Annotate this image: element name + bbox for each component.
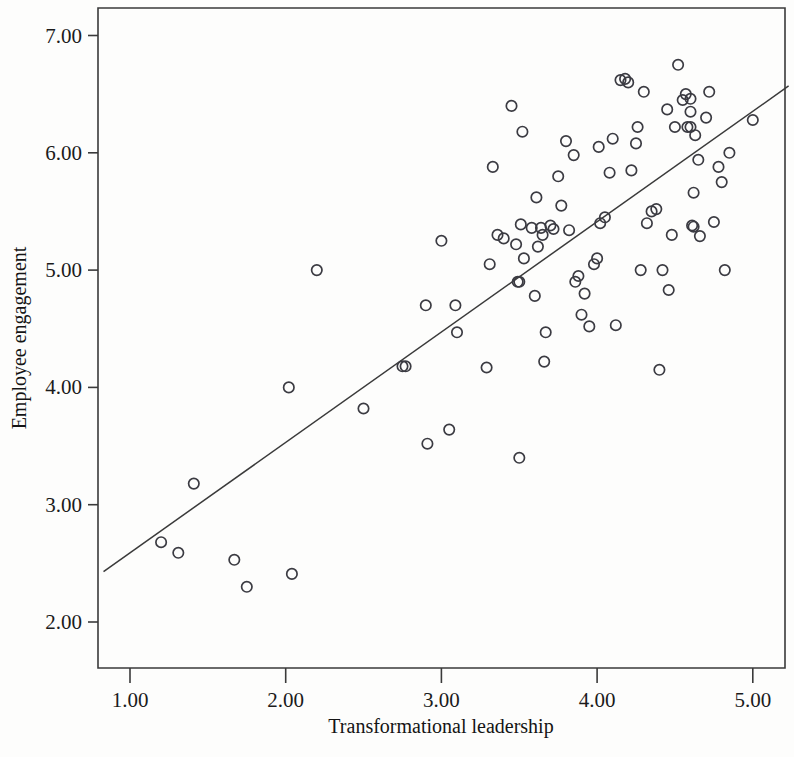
data-point [284, 382, 294, 392]
data-point [499, 233, 509, 243]
data-point [664, 285, 674, 295]
data-point [229, 555, 239, 565]
data-point [481, 362, 491, 372]
data-points [156, 60, 758, 592]
data-point [579, 288, 589, 298]
data-point [564, 225, 574, 235]
x-tick-label: 5.00 [734, 688, 771, 712]
x-tick-label: 2.00 [267, 688, 304, 712]
data-point [444, 424, 454, 434]
data-point [604, 168, 614, 178]
data-point [569, 150, 579, 160]
data-point [519, 253, 529, 263]
y-tick-label: 3.00 [45, 493, 82, 517]
x-tick-label: 3.00 [423, 688, 460, 712]
x-tick-label: 1.00 [112, 688, 149, 712]
data-point [541, 327, 551, 337]
data-point [436, 236, 446, 246]
data-point [611, 320, 621, 330]
data-point [709, 217, 719, 227]
data-point [632, 122, 642, 132]
data-point [561, 136, 571, 146]
data-point [242, 582, 252, 592]
data-point [704, 87, 714, 97]
data-point [514, 453, 524, 463]
data-point [553, 171, 563, 181]
chart-canvas: 2.003.004.005.006.007.00 1.002.003.004.0… [0, 0, 794, 757]
data-point [156, 537, 166, 547]
data-point [685, 107, 695, 117]
data-point [724, 148, 734, 158]
y-axis-ticks: 2.003.004.005.006.007.00 [45, 24, 98, 635]
data-point [506, 101, 516, 111]
data-point [642, 218, 652, 228]
data-point [531, 192, 541, 202]
data-point [511, 239, 521, 249]
data-point [488, 162, 498, 172]
data-point [667, 230, 677, 240]
data-point [673, 60, 683, 70]
data-point [539, 356, 549, 366]
y-tick-label: 5.00 [45, 258, 82, 282]
y-tick-label: 7.00 [45, 24, 82, 48]
data-point [576, 310, 586, 320]
data-point [713, 162, 723, 172]
data-point [517, 127, 527, 137]
data-point [717, 177, 727, 187]
data-point [720, 265, 730, 275]
data-point [556, 200, 566, 210]
x-tick-label: 4.00 [579, 688, 616, 712]
data-point [450, 300, 460, 310]
data-point [608, 134, 618, 144]
data-point [657, 265, 667, 275]
data-point [584, 321, 594, 331]
data-point [530, 291, 540, 301]
data-point [492, 230, 502, 240]
data-point [688, 188, 698, 198]
x-axis-ticks: 1.002.003.004.005.00 [112, 668, 772, 712]
scatterplot-figure: 2.003.004.005.006.007.00 1.002.003.004.0… [0, 0, 794, 757]
data-point [287, 569, 297, 579]
data-point [533, 241, 543, 251]
plot-frame [98, 8, 785, 668]
data-point [189, 478, 199, 488]
data-point [631, 138, 641, 148]
data-point [516, 219, 526, 229]
data-point [748, 115, 758, 125]
plot-border [98, 8, 785, 668]
data-point [626, 165, 636, 175]
regression-line [104, 86, 789, 572]
data-point [312, 265, 322, 275]
data-point [173, 548, 183, 558]
y-tick-label: 4.00 [45, 375, 82, 399]
data-point [693, 155, 703, 165]
data-point [695, 231, 705, 241]
data-point [485, 259, 495, 269]
data-point [422, 439, 432, 449]
data-point [662, 104, 672, 114]
x-axis-title: Transformational leadership [328, 715, 553, 738]
data-point [690, 130, 700, 140]
y-tick-label: 6.00 [45, 141, 82, 165]
data-point [670, 122, 680, 132]
data-point [452, 327, 462, 337]
y-axis-title: Employee engagement [8, 246, 31, 429]
data-point [421, 300, 431, 310]
data-point [537, 230, 547, 240]
data-point [594, 142, 604, 152]
regression-fit-line [104, 86, 789, 572]
data-point [654, 365, 664, 375]
data-point [636, 265, 646, 275]
data-point [701, 112, 711, 122]
data-point [358, 403, 368, 413]
data-point [639, 87, 649, 97]
y-tick-label: 2.00 [45, 610, 82, 634]
